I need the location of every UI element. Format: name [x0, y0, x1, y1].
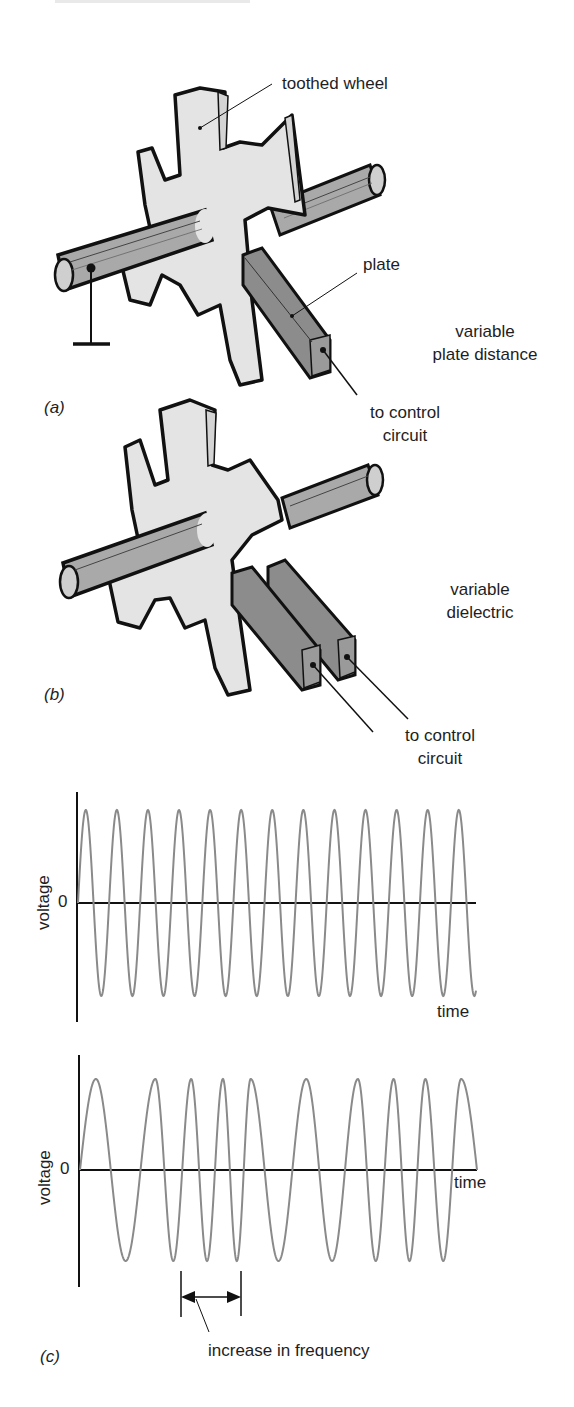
caption-c: (c) — [40, 1347, 60, 1367]
arrow-left-icon — [181, 1291, 195, 1303]
label-increase-in-frequency: increase in frequency — [208, 1341, 370, 1361]
graph2-y-zero-tick: 0 — [60, 1159, 69, 1179]
panel-c-graphs — [0, 0, 574, 1407]
frequency-interval-marker — [181, 1271, 241, 1332]
arrow-right-icon — [227, 1291, 241, 1303]
graph2-x-axis-label: time — [454, 1173, 486, 1193]
graph1-axes — [77, 792, 476, 1022]
graph1-x-axis-label: time — [437, 1002, 469, 1022]
graph2-y-axis-label: voltage — [35, 1150, 55, 1205]
graph1-y-axis-label: voltage — [34, 875, 54, 930]
graph1-y-zero-tick: 0 — [58, 892, 67, 912]
